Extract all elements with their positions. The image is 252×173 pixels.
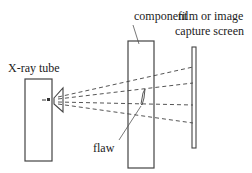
ray-4 bbox=[58, 104, 193, 123]
capture-screen bbox=[192, 47, 196, 148]
flaw-shape bbox=[141, 89, 145, 105]
source-point-icon bbox=[47, 98, 50, 101]
xray-tube-body bbox=[25, 79, 52, 161]
flaw-leader-line bbox=[119, 106, 141, 140]
screen-label-line2: capture screen bbox=[175, 24, 244, 38]
ray-2 bbox=[58, 83, 193, 99]
xray-beams bbox=[58, 67, 193, 123]
ray-1 bbox=[58, 67, 193, 97]
xray-tube-label: X-ray tube bbox=[8, 61, 60, 75]
emitter-cone-icon bbox=[54, 88, 63, 112]
flaw-label: flaw bbox=[93, 141, 115, 155]
screen-label-line1: film or image bbox=[178, 9, 243, 23]
radiography-diagram: X-ray tube component flaw film or image … bbox=[0, 0, 252, 173]
ray-3 bbox=[58, 102, 193, 105]
